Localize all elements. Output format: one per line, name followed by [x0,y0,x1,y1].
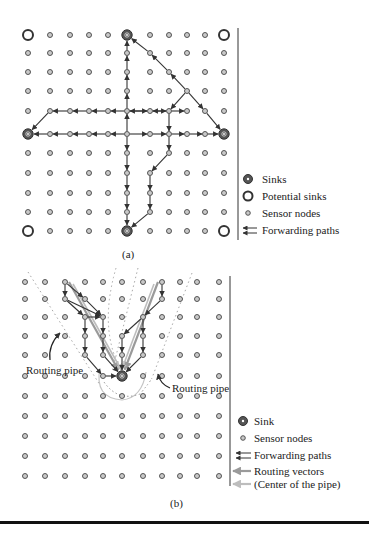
sensor-node [160,454,165,459]
sensor-node [125,210,130,215]
sensor-node [167,191,172,196]
potential-sink-node [219,226,229,236]
legend-label-sensor-nodes: Sensor nodes [254,432,312,444]
sensor-node [63,474,68,479]
forwarding-path-segment [152,55,167,70]
sensor-node [203,70,208,75]
sensor-node [68,229,73,234]
left-pipe-annotation-arrow [50,333,60,360]
sensor-node [26,89,31,94]
sensor-node [120,297,125,302]
sensor-node [48,33,53,38]
sensor-node [43,394,48,399]
sensor-node [178,434,183,439]
sensor-node [203,33,208,38]
forwarding-path-segment [189,93,203,109]
sensor-node [195,280,200,285]
forwarding-path-segment [207,113,220,129]
sensor-node [101,394,106,399]
sensor-node [63,315,68,320]
sensor-node [148,171,153,176]
sensor-node [48,151,53,156]
legend-label-potential-sinks: Potential sinks [262,190,326,202]
forwarding-path-segment [67,284,82,297]
sensor-node [148,109,153,114]
sink-node-center [223,133,225,135]
sensor-node [167,70,172,75]
sensor-node [178,374,183,379]
sensor-node [68,171,73,176]
sensor-node [141,394,146,399]
sensor-node [141,434,146,439]
sensor-node [23,474,28,479]
sensor-node [101,474,106,479]
forwarding-path-segment [32,113,48,129]
sensor-node [178,280,183,285]
sink-node-center [126,34,128,36]
sensor-node [23,315,28,320]
sensor-node [87,229,92,234]
sensor-node [185,70,190,75]
sensor-node [120,334,125,339]
sensor-node [23,334,28,339]
sensor-node [125,191,130,196]
sensor-node [68,33,73,38]
sensor-node [68,132,73,137]
sensor-node [43,334,48,339]
sensor-node [87,191,92,196]
sensor-node [185,151,190,156]
sensor-node [222,70,227,75]
sensor-node [26,51,31,56]
left-pipe-annotation: Routing pipe [26,364,83,376]
sensor-node [23,297,28,302]
sensor-node-icon [241,436,246,441]
sensor-node [217,434,222,439]
sensor-node [23,414,28,419]
sensor-node [63,353,68,358]
sensor-node [26,171,31,176]
sensor-node [63,280,68,285]
sensor-node [43,414,48,419]
sensor-node [217,394,222,399]
sensor-node [141,374,146,379]
panel-b-nodes [23,280,222,479]
sensor-node [203,229,208,234]
sensor-node [43,474,48,479]
sensor-node [125,171,130,176]
panel-b-caption: (b) [170,497,183,510]
sensor-node [43,434,48,439]
sensor-node [203,89,208,94]
sensor-node [148,151,153,156]
sensor-node [203,51,208,56]
sensor-node [222,151,227,156]
sensor-node [148,33,153,38]
sensor-node [185,132,190,137]
sensor-node [106,51,111,56]
sensor-node [148,89,153,94]
sensor-node [101,374,106,379]
sensor-node [63,394,68,399]
sensor-node [160,414,165,419]
sensor-node [48,191,53,196]
sensor-node [125,109,130,114]
potential-sink-icon [244,192,253,201]
sensor-node [48,132,53,137]
sensor-node [101,315,106,320]
potential-sink-node [219,30,229,40]
potential-sink-node [23,30,33,40]
pipe-center-vector [73,284,121,370]
panel-b: Routing pipe Routing pipe Sink Sensor no… [23,268,341,510]
sensor-node [195,434,200,439]
sensor-node [167,210,172,215]
forwarding-path-segment [132,39,148,51]
right-pipe-annotation: Routing pipe [172,382,229,394]
sensor-node [101,280,106,285]
sensor-node [106,210,111,215]
sensor-node [87,171,92,176]
sensor-node [222,51,227,56]
sensor-node [63,454,68,459]
sensor-node [63,434,68,439]
sensor-node [185,109,190,114]
sensor-node [185,33,190,38]
sensor-node [68,151,73,156]
